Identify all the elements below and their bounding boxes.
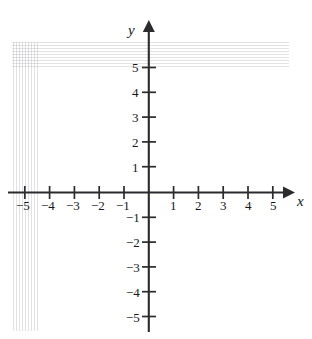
y-tick-label-2: 2	[132, 136, 139, 149]
x-axis-arrow	[283, 187, 295, 199]
y-tick-label--5: −5	[126, 311, 140, 324]
axes-and-ticks	[0, 0, 312, 339]
x-tick-label-3: 3	[220, 199, 227, 212]
x-tick-label--5: −5	[16, 199, 30, 212]
y-tick-label-3: 3	[132, 111, 139, 124]
x-tick-label-1: 1	[170, 199, 177, 212]
y-tick-label--2: −2	[126, 236, 140, 249]
x-tick-label-4: 4	[245, 199, 252, 212]
y-tick-label-4: 4	[132, 86, 139, 99]
y-tick-label-1: 1	[132, 161, 139, 174]
y-tick-label--3: −3	[126, 261, 140, 274]
x-tick-label--2: −2	[91, 199, 105, 212]
x-tick-label-5: 5	[270, 199, 277, 212]
coordinate-plane-figure: −5 −4 −3 −2 −1 1 2 3 4 5 5 4 3 2 1 −1 −2…	[0, 0, 312, 339]
y-axis-label: y	[128, 23, 135, 38]
y-tick-label--1: −1	[126, 211, 140, 224]
y-tick-label--4: −4	[126, 286, 140, 299]
y-axis-arrow	[143, 20, 155, 32]
x-tick-label--4: −4	[41, 199, 55, 212]
y-tick-label-5: 5	[132, 61, 139, 74]
x-tick-label--3: −3	[66, 199, 80, 212]
x-axis-label: x	[297, 194, 304, 209]
x-tick-label-2: 2	[195, 199, 202, 212]
